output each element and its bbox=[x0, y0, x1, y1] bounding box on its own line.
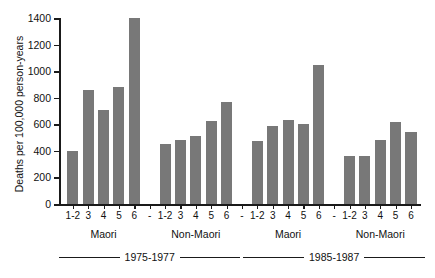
x-tick-label: 3 bbox=[178, 211, 184, 221]
period-band: 1975-1977 bbox=[59, 252, 240, 263]
bar-chart: Deaths per 100,000 person-years 02004006… bbox=[0, 0, 435, 278]
x-tick-mark bbox=[350, 204, 351, 209]
x-tick-label: 1-2 bbox=[158, 211, 172, 221]
y-tick-label: 200 bbox=[33, 172, 51, 183]
x-tick-mark bbox=[396, 204, 397, 209]
x-tick-label: 3 bbox=[270, 211, 276, 221]
x-tick-mark bbox=[303, 204, 304, 209]
period-label: 1975-1977 bbox=[125, 252, 175, 263]
x-tick-mark bbox=[134, 204, 135, 209]
x-tick-mark bbox=[88, 204, 89, 209]
period-band: 1985-1987 bbox=[243, 252, 424, 263]
bar bbox=[160, 144, 171, 204]
period-rule-right bbox=[364, 257, 425, 258]
group-label: Maori bbox=[275, 229, 301, 240]
x-axis-line bbox=[59, 204, 421, 206]
x-tick-label: 3 bbox=[362, 211, 368, 221]
bar bbox=[344, 156, 355, 204]
bar bbox=[190, 136, 201, 204]
x-tick-label: 5 bbox=[116, 211, 122, 221]
x-tick-label: 1-2 bbox=[250, 211, 264, 221]
y-tick-label: 0 bbox=[45, 199, 51, 210]
x-tick-label: 4 bbox=[193, 211, 199, 221]
bar bbox=[113, 87, 124, 204]
x-tick-mark bbox=[319, 204, 320, 209]
bar bbox=[83, 90, 94, 204]
x-tick-label: 5 bbox=[208, 211, 214, 221]
x-tick-label: 3 bbox=[85, 211, 91, 221]
x-tick-label: 1-2 bbox=[66, 211, 80, 221]
plot-area: 0200400600800100012001400 1-23456-1-2345… bbox=[59, 18, 421, 204]
x-tick-mark bbox=[104, 204, 105, 209]
bar bbox=[283, 120, 294, 204]
x-tick-mark bbox=[73, 204, 74, 209]
x-tick-mark bbox=[273, 204, 274, 209]
group-label: Maori bbox=[90, 229, 116, 240]
x-tick-mark bbox=[119, 204, 120, 209]
bar bbox=[313, 65, 324, 204]
bar bbox=[359, 156, 370, 204]
bar bbox=[405, 132, 416, 204]
group-label: Non-Maori bbox=[356, 229, 405, 240]
x-tick-mark bbox=[180, 204, 181, 209]
x-tick-label-separator: - bbox=[240, 211, 243, 221]
x-tick-label: 5 bbox=[393, 211, 399, 221]
bar bbox=[206, 121, 217, 204]
x-tick-mark bbox=[411, 204, 412, 209]
x-tick-mark bbox=[211, 204, 212, 209]
x-tick-label: 5 bbox=[301, 211, 307, 221]
group-label: Non-Maori bbox=[171, 229, 220, 240]
x-tick-mark bbox=[257, 204, 258, 209]
x-tick-mark bbox=[380, 204, 381, 209]
x-tick-label: 6 bbox=[132, 211, 138, 221]
x-tick-label: 6 bbox=[224, 211, 230, 221]
x-tick-label: 4 bbox=[285, 211, 291, 221]
x-tick-mark bbox=[227, 204, 228, 209]
bar bbox=[175, 140, 186, 204]
bar bbox=[267, 126, 278, 204]
period-rule-right bbox=[180, 257, 241, 258]
x-tick-mark bbox=[365, 204, 366, 209]
x-tick-mark-separator bbox=[150, 204, 151, 209]
bar bbox=[221, 102, 232, 204]
period-rule-left bbox=[59, 257, 120, 258]
x-tick-mark bbox=[165, 204, 166, 209]
y-tick-label: 1200 bbox=[28, 39, 51, 50]
bar bbox=[375, 140, 386, 204]
x-tick-mark-separator bbox=[242, 204, 243, 209]
x-tick-label-separator: - bbox=[148, 211, 151, 221]
y-tick-mark bbox=[54, 204, 59, 206]
y-tick-label: 1400 bbox=[28, 13, 51, 24]
x-tick-label: 6 bbox=[408, 211, 414, 221]
bar bbox=[390, 122, 401, 204]
period-rule-left bbox=[243, 257, 304, 258]
y-axis-title: Deaths per 100,000 person-years bbox=[13, 9, 25, 219]
bar bbox=[298, 124, 309, 204]
period-label: 1985-1987 bbox=[309, 252, 359, 263]
bar bbox=[98, 110, 109, 204]
bar bbox=[252, 141, 263, 204]
x-tick-mark bbox=[288, 204, 289, 209]
bar bbox=[129, 18, 140, 204]
y-tick-label: 600 bbox=[33, 119, 51, 130]
y-tick-label: 800 bbox=[33, 92, 51, 103]
x-tick-mark-separator bbox=[334, 204, 335, 209]
bar-series bbox=[59, 18, 421, 204]
x-tick-label: 1-2 bbox=[342, 211, 356, 221]
x-tick-label: 4 bbox=[377, 211, 383, 221]
x-tick-label: 4 bbox=[101, 211, 107, 221]
y-tick-label: 400 bbox=[33, 146, 51, 157]
x-tick-mark bbox=[196, 204, 197, 209]
x-tick-label: 6 bbox=[316, 211, 322, 221]
y-tick-label: 1000 bbox=[28, 66, 51, 77]
bar bbox=[67, 151, 78, 204]
x-tick-label-separator: - bbox=[332, 211, 335, 221]
